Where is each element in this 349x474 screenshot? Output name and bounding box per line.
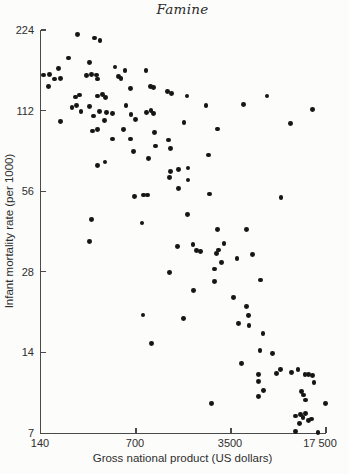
data-point <box>235 256 240 261</box>
data-point <box>279 195 284 200</box>
data-point <box>121 127 126 132</box>
x-tick-label: 700 <box>126 436 144 450</box>
data-point <box>212 267 217 272</box>
data-point <box>95 163 100 168</box>
data-point <box>301 393 306 398</box>
famine-scatter-figure: Famine Infant mortality rate (per 1000) … <box>0 0 349 474</box>
data-point <box>169 91 174 96</box>
y-axis-tick <box>41 271 46 272</box>
data-point <box>110 111 115 116</box>
data-point <box>140 221 145 226</box>
data-point <box>103 160 108 165</box>
data-point <box>256 394 261 399</box>
data-point <box>129 112 134 117</box>
data-point <box>41 73 46 78</box>
data-point <box>77 93 82 98</box>
data-point <box>256 379 261 384</box>
data-point <box>198 249 203 254</box>
y-axis-label: Infant mortality rate (per 1000) <box>3 154 15 309</box>
data-point <box>89 217 94 222</box>
data-point <box>191 242 196 247</box>
data-point <box>145 193 150 198</box>
data-point <box>250 252 255 257</box>
data-point <box>236 321 241 326</box>
data-point <box>175 244 180 249</box>
y-tick-label: 56 <box>0 184 34 198</box>
data-point <box>244 304 249 309</box>
data-point <box>231 295 236 300</box>
data-point <box>144 68 149 73</box>
data-point <box>303 398 308 403</box>
y-tick-label: 7 <box>0 426 34 440</box>
data-point <box>293 414 298 419</box>
data-point <box>297 421 302 426</box>
data-point <box>123 68 128 73</box>
data-point <box>270 351 275 356</box>
data-point <box>79 109 84 114</box>
x-axis-tick <box>230 428 231 433</box>
data-point <box>151 85 156 90</box>
y-tick-label: 224 <box>0 23 34 37</box>
data-point <box>185 94 190 99</box>
data-point <box>141 313 146 318</box>
data-point <box>87 104 92 109</box>
data-point <box>119 76 124 81</box>
data-point <box>247 323 252 328</box>
data-point <box>215 127 220 132</box>
data-point <box>98 38 103 43</box>
data-point <box>124 103 129 108</box>
data-point <box>288 121 293 126</box>
data-point <box>244 227 249 232</box>
data-point <box>102 118 107 123</box>
data-point <box>186 178 191 183</box>
data-point <box>104 110 109 115</box>
data-point <box>310 373 315 378</box>
y-tick-label: 112 <box>0 104 34 118</box>
x-axis-tick <box>135 428 136 433</box>
data-point <box>241 102 246 107</box>
x-tick-label: 17 500 <box>303 436 337 450</box>
data-point <box>46 84 51 89</box>
x-tick-label: 3500 <box>218 436 242 450</box>
data-point <box>89 72 94 77</box>
data-point <box>191 288 196 293</box>
data-point <box>256 372 261 377</box>
data-point <box>153 144 158 149</box>
y-axis-tick <box>41 352 46 353</box>
data-point <box>103 95 108 100</box>
data-point <box>95 77 100 82</box>
data-point <box>261 331 266 336</box>
data-point <box>47 72 52 77</box>
data-point <box>176 167 181 172</box>
data-point <box>168 146 173 151</box>
data-point <box>207 192 212 197</box>
data-point <box>110 137 115 142</box>
plot-area <box>40 30 326 434</box>
data-point <box>219 260 224 265</box>
data-point <box>204 103 209 108</box>
data-point <box>113 65 118 70</box>
data-point <box>168 169 173 174</box>
data-point <box>261 388 266 393</box>
data-point <box>289 370 294 375</box>
x-axis-label: Gross national product (US dollars) <box>40 452 325 464</box>
data-point <box>309 417 314 422</box>
data-point <box>212 279 217 284</box>
data-point <box>87 239 92 244</box>
data-point <box>91 114 96 119</box>
data-point <box>258 278 263 283</box>
data-point <box>186 166 191 171</box>
y-axis-tick <box>41 110 46 111</box>
x-tick-label: 140 <box>31 436 49 450</box>
data-point <box>133 117 138 122</box>
data-point <box>75 32 80 37</box>
data-point <box>132 194 137 199</box>
data-point <box>185 212 190 217</box>
data-point <box>97 109 102 114</box>
data-point <box>167 270 172 275</box>
data-point <box>149 341 154 346</box>
data-point <box>310 107 315 112</box>
x-axis-tick <box>325 427 326 433</box>
data-point <box>58 76 63 81</box>
data-point <box>176 186 181 191</box>
